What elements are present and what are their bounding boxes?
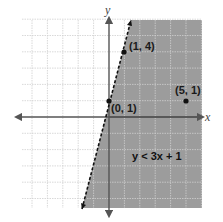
x-axis-label: x: [204, 110, 211, 124]
inequality-graph: x y (0, 1) (1, 4) (5, 1) y < 3x + 1: [0, 0, 223, 222]
inequality-label: y < 3x + 1: [132, 150, 182, 162]
point-5-1: [183, 98, 188, 103]
y-axis-label: y: [104, 3, 111, 17]
point-label-0-1: (0, 1): [111, 102, 137, 114]
point-label-1-4: (1, 4): [129, 40, 155, 52]
point-1-4: [121, 49, 126, 54]
point-label-5-1: (5, 1): [175, 84, 201, 96]
